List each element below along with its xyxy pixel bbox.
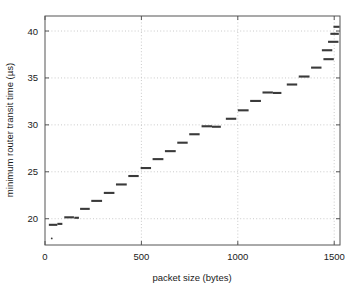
plot-background [45, 16, 340, 245]
x-tick-label: 1500 [324, 251, 345, 262]
y-axis-label: minimum router transit time (µs) [4, 63, 15, 197]
y-tick-label: 30 [27, 119, 38, 130]
y-tick-label: 20 [27, 213, 38, 224]
x-tick-label: 0 [42, 251, 47, 262]
x-axis-label: packet size (bytes) [152, 272, 231, 283]
y-tick-label: 35 [27, 72, 38, 83]
x-tick-label: 500 [133, 251, 149, 262]
chart-figure: 2025303540050010001500 packet size (byte… [0, 0, 362, 294]
x-tick-label: 1000 [227, 251, 248, 262]
y-tick-label: 40 [27, 26, 38, 37]
y-tick-label: 25 [27, 166, 38, 177]
data-point-outlier [51, 238, 53, 240]
scatter-plot: 2025303540050010001500 packet size (byte… [0, 0, 362, 294]
